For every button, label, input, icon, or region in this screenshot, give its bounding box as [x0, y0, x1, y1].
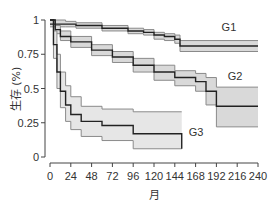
x-tick-label: 240 — [249, 170, 267, 182]
x-tick-label: 192 — [207, 170, 225, 182]
x-tick-label: 120 — [145, 170, 163, 182]
series-label-g2: G2 — [228, 70, 243, 82]
x-tick-label: 72 — [106, 170, 118, 182]
y-tick-label: 0 — [33, 151, 39, 163]
series-label-g1: G1 — [222, 21, 237, 33]
y-tick-label: 1 — [33, 14, 39, 26]
confidence-bands — [50, 20, 258, 149]
x-tick-label: 0 — [47, 170, 53, 182]
x-tick-label: 48 — [85, 170, 97, 182]
y-tick-label: 0.25 — [18, 117, 39, 129]
y-axis-label: 生存 (%) — [9, 67, 23, 112]
x-tick-label: 144 — [166, 170, 184, 182]
x-tick-label: 168 — [186, 170, 204, 182]
y-tick-label: 0.75 — [18, 48, 39, 60]
survival-chart: 00.250.50.751024487296120144168192216240… — [0, 0, 271, 207]
y-tick-label: 0.5 — [24, 83, 39, 95]
series-label-g3: G3 — [189, 126, 204, 138]
x-tick-label: 24 — [65, 170, 77, 182]
x-axis-label: 月 — [149, 189, 160, 202]
x-tick-label: 216 — [228, 170, 246, 182]
x-tick-label: 96 — [127, 170, 139, 182]
